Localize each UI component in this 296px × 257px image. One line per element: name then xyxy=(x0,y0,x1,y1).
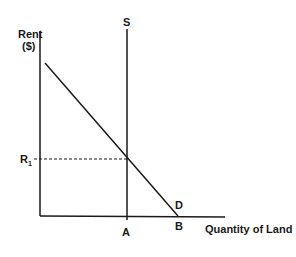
demand-line xyxy=(45,63,178,216)
y-axis-label: Rent ($) xyxy=(18,28,42,52)
demand-label: D xyxy=(175,199,183,211)
diagram-canvas xyxy=(0,0,296,257)
rent-subscript: 1 xyxy=(28,160,32,167)
x-axis xyxy=(40,216,225,217)
rent-diagram: Rent ($) S R1 A B D Quantity of Land xyxy=(0,0,296,257)
point-b-label: B xyxy=(175,220,183,232)
y-axis-label-line2: ($) xyxy=(18,40,42,52)
supply-label: S xyxy=(123,16,130,28)
x-axis-label: Quantity of Land xyxy=(205,223,292,235)
rent-label: R xyxy=(20,153,28,165)
rent-r1-label: R1 xyxy=(20,153,32,170)
y-axis-label-line1: Rent xyxy=(18,28,42,40)
point-a-label: A xyxy=(122,226,130,238)
